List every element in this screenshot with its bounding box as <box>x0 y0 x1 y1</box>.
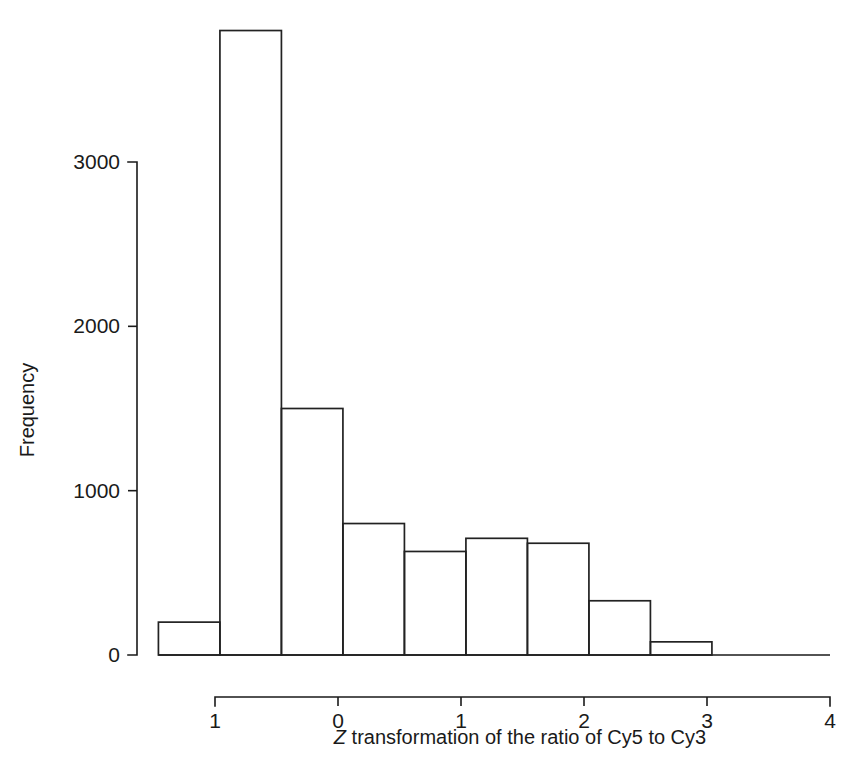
x-axis-tick-label: 1 <box>209 709 221 732</box>
histogram-figure: 0100020003000 Frequency 101234 Z transfo… <box>0 0 854 783</box>
x-axis: 101234 Z transformation of the ratio of … <box>209 697 836 748</box>
y-axis: 0100020003000 Frequency <box>16 150 137 666</box>
histogram-bar <box>220 31 281 655</box>
histogram-bar <box>158 622 220 655</box>
x-axis-title-rest-part: transformation of the ratio of Cy5 to Cy… <box>346 726 706 748</box>
x-axis-title: Z transformation of the ratio of Cy5 to … <box>333 726 706 748</box>
histogram-bar <box>589 601 651 655</box>
histogram-bar <box>343 524 405 655</box>
y-axis-line <box>128 162 137 655</box>
histogram-bar <box>466 538 528 655</box>
x-axis-tick-label: 4 <box>824 709 836 732</box>
histogram-bars <box>158 31 712 655</box>
y-axis-tick-label: 0 <box>108 643 120 666</box>
histogram-bar <box>281 409 343 656</box>
y-axis-title: Frequency <box>16 363 38 458</box>
y-axis-tick-label: 3000 <box>73 150 120 173</box>
x-axis-title-italic-part: Z <box>333 726 347 748</box>
y-axis-tick-label: 1000 <box>73 479 120 502</box>
y-axis-ticks <box>128 326 137 490</box>
histogram-bar <box>404 551 466 655</box>
y-axis-tick-labels: 0100020003000 <box>73 150 120 666</box>
y-axis-tick-label: 2000 <box>73 314 120 337</box>
chart-canvas: 0100020003000 Frequency 101234 Z transfo… <box>0 0 854 783</box>
x-axis-ticks <box>338 697 707 706</box>
histogram-bar <box>650 642 712 655</box>
histogram-bar <box>527 543 589 655</box>
x-axis-line <box>215 697 830 706</box>
